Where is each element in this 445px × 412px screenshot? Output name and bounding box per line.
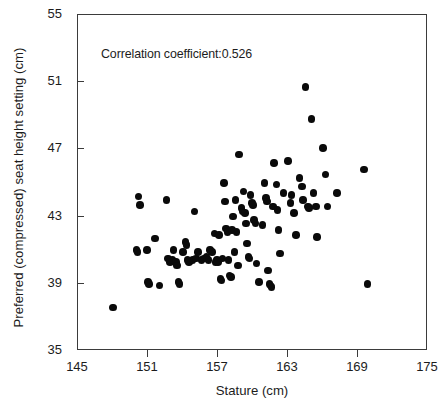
data-point	[136, 201, 144, 209]
data-point	[253, 260, 261, 268]
data-point	[310, 189, 318, 197]
x-axis-tick-label: 151	[117, 360, 177, 374]
data-point	[280, 189, 288, 197]
data-point	[179, 248, 187, 256]
data-point	[261, 179, 269, 187]
data-point	[191, 208, 199, 216]
data-point	[220, 179, 228, 187]
data-point	[208, 248, 216, 256]
data-point	[109, 304, 117, 312]
y-axis-tick-label: 35	[22, 343, 62, 356]
y-axis-tick-label: 55	[22, 7, 62, 20]
data-point	[259, 221, 267, 229]
data-point	[264, 267, 272, 275]
data-point	[270, 159, 278, 167]
x-axis-tick-label: 157	[187, 360, 247, 374]
y-axis-tick-mark	[77, 81, 84, 82]
data-point	[143, 246, 151, 254]
data-point	[322, 171, 330, 179]
data-point	[302, 83, 310, 91]
data-point	[249, 201, 257, 209]
data-point	[215, 231, 223, 239]
data-point	[284, 157, 292, 165]
y-axis-tick-label: 47	[22, 141, 62, 154]
x-axis-tick-label: 169	[327, 360, 387, 374]
y-axis-title: Preferred (compressed) seat height setti…	[11, 18, 26, 358]
x-axis-tick-mark	[147, 350, 148, 357]
data-point	[292, 231, 300, 239]
data-point	[290, 209, 298, 217]
y-axis-tick-label: 51	[22, 74, 62, 87]
x-axis-tick-label: 175	[397, 360, 445, 374]
x-axis-tick-mark	[217, 350, 218, 357]
data-point	[242, 220, 250, 228]
x-axis-tick-mark	[287, 350, 288, 357]
data-point	[276, 250, 284, 258]
data-point	[221, 198, 229, 206]
data-point	[241, 209, 249, 217]
y-axis-tick-mark	[77, 216, 84, 217]
data-point	[255, 278, 263, 286]
data-point	[296, 174, 304, 182]
data-point	[287, 199, 295, 207]
data-point	[151, 235, 159, 243]
data-point	[274, 206, 282, 214]
data-point	[273, 181, 281, 189]
data-point	[234, 262, 242, 270]
data-point	[252, 220, 260, 228]
data-point	[231, 248, 239, 256]
data-point	[275, 226, 283, 234]
y-axis-tick-mark	[77, 283, 84, 284]
data-point	[308, 115, 316, 123]
data-point	[173, 262, 181, 270]
data-point	[247, 191, 255, 199]
data-point	[227, 273, 235, 281]
scatter-plot-figure: Correlation coefficient:0.526 3539434751…	[0, 0, 445, 412]
data-point	[218, 277, 226, 285]
x-axis-tick-label: 163	[257, 360, 317, 374]
data-point	[232, 196, 240, 204]
data-point	[360, 166, 368, 174]
correlation-coefficient-annotation: Correlation coefficient:0.526	[101, 47, 252, 61]
data-point	[183, 241, 191, 249]
data-point	[298, 183, 306, 191]
data-point	[229, 213, 237, 221]
data-point	[268, 283, 276, 291]
y-axis-tick-mark	[77, 148, 84, 149]
y-axis-tick-label: 43	[22, 209, 62, 222]
data-point	[364, 280, 372, 288]
y-axis-tick-label: 39	[22, 276, 62, 289]
data-point	[288, 191, 296, 199]
data-point	[134, 248, 142, 256]
data-point	[176, 280, 184, 288]
data-point	[246, 255, 254, 263]
data-point	[135, 193, 143, 201]
data-point	[235, 151, 243, 159]
data-point	[313, 233, 321, 241]
data-point	[243, 240, 251, 248]
data-point	[324, 203, 332, 211]
data-point	[333, 189, 341, 197]
x-axis-title: Stature (cm)	[77, 383, 427, 398]
data-point	[312, 203, 320, 211]
data-point	[233, 228, 241, 236]
data-point	[170, 246, 178, 254]
plot-area-frame	[77, 14, 427, 350]
data-point	[319, 144, 327, 152]
data-point	[145, 280, 153, 288]
x-axis-tick-label: 145	[47, 360, 107, 374]
x-axis-tick-mark	[357, 350, 358, 357]
data-point	[225, 256, 233, 264]
data-point	[156, 282, 164, 290]
data-points-layer	[78, 15, 426, 349]
data-point	[163, 196, 171, 204]
